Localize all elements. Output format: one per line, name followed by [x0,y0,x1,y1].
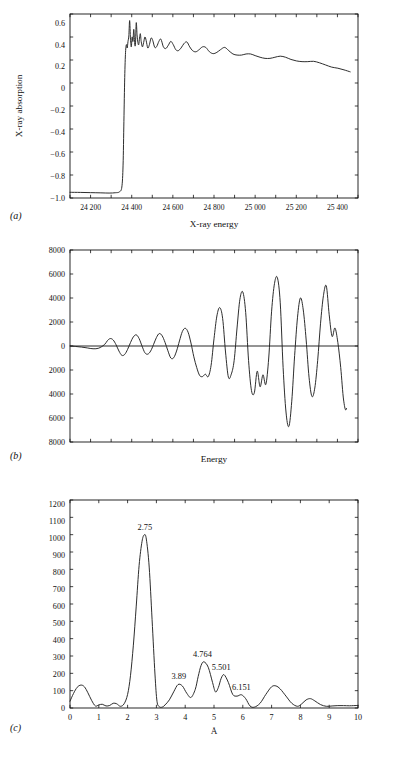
y-tick-label: −1.0 [50,194,65,203]
y-tick-label: 800 [53,568,65,577]
panel-b-svg: 800060004000200002000400060008000 Energy [0,236,395,478]
peak-label: 2.75 [138,523,153,532]
y-tick-label: 4000 [49,390,65,399]
panel-a-y-tick-labels: 0.60.40.20−0.2−0.4−0.6−0.8−1.0 [50,19,65,203]
y-tick-label: 0 [61,342,65,351]
panel-a-absorption: 0.60.40.20−0.2−0.4−0.6−0.8−1.0 24 20024 … [0,0,395,236]
y-tick-label: 200 [53,670,65,679]
y-tick-label: −0.4 [50,128,65,137]
y-tick-label: 0.2 [55,62,65,71]
peak-label: 3.89 [172,672,187,681]
panel-c-tag: (c) [10,722,21,733]
y-tick-label: 400 [53,636,65,645]
x-tick-label: 5 [212,713,216,722]
x-tick-label: 25 200 [286,203,307,212]
panel-c-y-tick-labels: 1200110010009008007006005004003002001000 [49,500,65,713]
panel-b-curve [70,276,346,426]
x-tick-label: 7 [270,713,274,722]
y-tick-label: 1100 [49,517,65,526]
y-tick-label: 1200 [49,500,65,509]
y-tick-label: 700 [53,585,65,594]
y-tick-label: 0.4 [55,41,65,50]
y-tick-label: 0.6 [55,19,65,28]
panel-c-y-ticks [70,500,358,708]
x-tick-label: 24 800 [204,203,225,212]
peak-label: 5.501 [212,663,231,672]
y-tick-label: 8000 [49,246,65,255]
y-tick-label: 0 [61,84,65,93]
x-tick-label: 24 200 [80,203,101,212]
y-tick-label: 2000 [49,318,65,327]
panel-c-frame [70,500,358,708]
x-tick-label: 25 000 [245,203,266,212]
x-tick-label: 6 [241,713,245,722]
x-tick-label: 24 600 [162,203,183,212]
y-tick-label: 1000 [49,534,65,543]
x-tick-label: 10 [354,713,362,722]
y-tick-label: 500 [53,619,65,628]
panel-a-y-axis-title: X-ray absorption [14,74,24,137]
panel-a-x-tick-labels: 24 20024 40024 60024 80025 00025 20025 4… [80,203,348,212]
x-tick-label: 3 [154,713,158,722]
y-tick-label: 6000 [49,270,65,279]
panel-a-svg: 0.60.40.20−0.2−0.4−0.6−0.8−1.0 24 20024 … [0,0,395,236]
x-tick-label: 4 [183,713,187,722]
y-tick-label: 300 [53,653,65,662]
x-tick-label: 1 [97,713,101,722]
panel-b-tag: (b) [10,450,22,461]
panel-c-svg: 1200110010009008007006005004003002001000… [0,478,395,758]
panel-a-x-axis-title: X-ray energy [190,219,239,229]
panel-a-frame [70,14,358,198]
y-tick-label: −0.8 [50,172,65,181]
xafs-figure: 0.60.40.20−0.2−0.4−0.6−0.8−1.0 24 20024 … [0,0,395,758]
y-tick-label: −0.6 [50,150,65,159]
peak-label: 4.764 [193,650,213,659]
panel-a-y-ticks [70,14,358,198]
x-tick-label: 2 [126,713,130,722]
y-tick-label: 2000 [49,366,65,375]
panel-b-exafs: 800060004000200002000400060008000 Energy [0,236,395,478]
y-tick-label: 4000 [49,294,65,303]
x-tick-label: 0 [68,713,72,722]
y-tick-label: 0 [61,704,65,713]
y-tick-label: 8000 [49,438,65,447]
panel-c-fourier-transform: 1200110010009008007006005004003002001000… [0,478,395,758]
panel-b-y-tick-labels: 800060004000200002000400060008000 [49,246,65,447]
panel-c-curve [70,535,358,708]
panel-c-x-axis-title: Å [211,726,218,736]
x-tick-label: 25 400 [327,203,348,212]
panel-b-x-axis-title: Energy [201,454,228,464]
panel-a-curve [70,21,350,194]
y-tick-label: 100 [53,687,65,696]
panel-c-x-tick-labels: 012345678910 [68,713,362,722]
y-tick-label: 900 [53,551,65,560]
x-tick-label: 8 [298,713,302,722]
y-tick-label: −0.2 [50,106,65,115]
y-tick-label: 600 [53,602,65,611]
x-tick-label: 24 400 [121,203,142,212]
panel-a-tag: (a) [10,210,22,221]
peak-label: 6.151 [232,683,251,692]
y-tick-label: 6000 [49,414,65,423]
x-tick-label: 9 [327,713,331,722]
